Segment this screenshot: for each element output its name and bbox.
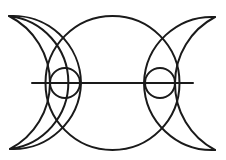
triple-moon-svg [0,0,226,160]
triple-moon-diagram [0,0,226,160]
